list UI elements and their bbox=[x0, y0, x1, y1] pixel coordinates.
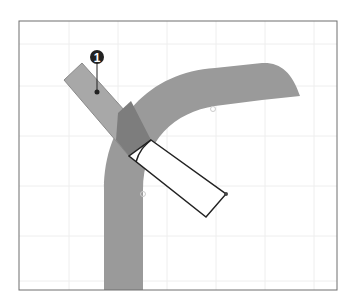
diagram-canvas: 1 bbox=[0, 0, 354, 308]
grid bbox=[19, 21, 337, 290]
canvas-frame bbox=[19, 21, 337, 290]
callout-target-dot bbox=[95, 90, 100, 95]
curve-point-marker[interactable] bbox=[211, 107, 216, 112]
callout-number: 1 bbox=[94, 51, 101, 65]
anchor-point-marker[interactable] bbox=[224, 192, 228, 196]
